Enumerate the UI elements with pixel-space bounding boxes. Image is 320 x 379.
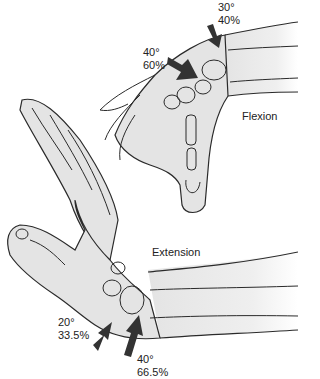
flexion-radiocarpal-label: 30° 40% (218, 1, 240, 27)
extension-midcarpal-percent: 33.5% (58, 329, 89, 342)
flexion-midcarpal-percent: 60% (143, 59, 165, 72)
flexion-midcarpal-angle: 40° (143, 46, 165, 59)
flexion-radiocarpal-percent: 40% (218, 14, 240, 27)
flexion-radiocarpal-angle: 30° (218, 1, 240, 14)
flexion-title: Flexion (242, 110, 277, 123)
extension-radiocarpal-angle: 40° (137, 353, 168, 366)
extension-midcarpal-angle: 20° (58, 316, 89, 329)
extension-radiocarpal-label: 40° 66.5% (137, 353, 168, 379)
extension-radiocarpal-percent: 66.5% (137, 366, 168, 379)
flexion-midcarpal-label: 40° 60% (143, 46, 165, 72)
extension-title: Extension (152, 246, 200, 259)
extension-midcarpal-label: 20° 33.5% (58, 316, 89, 342)
